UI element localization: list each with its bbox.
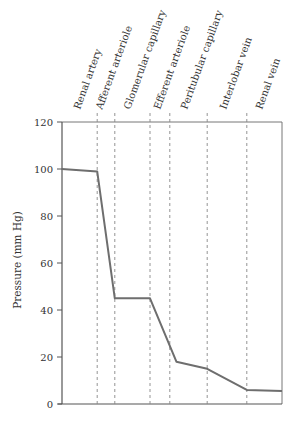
region-boundaries bbox=[97, 113, 247, 404]
pressure-chart: 020406080100120 Renal arteryAfferent art… bbox=[0, 0, 299, 421]
segment-labels: Renal arteryAfferent arterioleGlomerular… bbox=[72, 8, 283, 112]
y-tick-label: 100 bbox=[34, 164, 53, 175]
segment-label: Peritubular capillary bbox=[179, 8, 225, 110]
y-tick-label: 120 bbox=[34, 117, 53, 128]
pressure-line bbox=[62, 169, 282, 391]
y-tick-label: 20 bbox=[40, 352, 53, 363]
y-tick-label: 80 bbox=[40, 211, 53, 222]
y-ticks: 020406080100120 bbox=[34, 117, 62, 410]
y-tick-label: 40 bbox=[40, 305, 53, 316]
y-axis-label: Pressure (mm Hg) bbox=[11, 211, 23, 309]
segment-label: Interlobar vein bbox=[218, 35, 254, 111]
y-tick-label: 60 bbox=[40, 258, 53, 269]
y-tick-label: 0 bbox=[47, 399, 53, 410]
segment-label: Renal vein bbox=[254, 56, 283, 110]
